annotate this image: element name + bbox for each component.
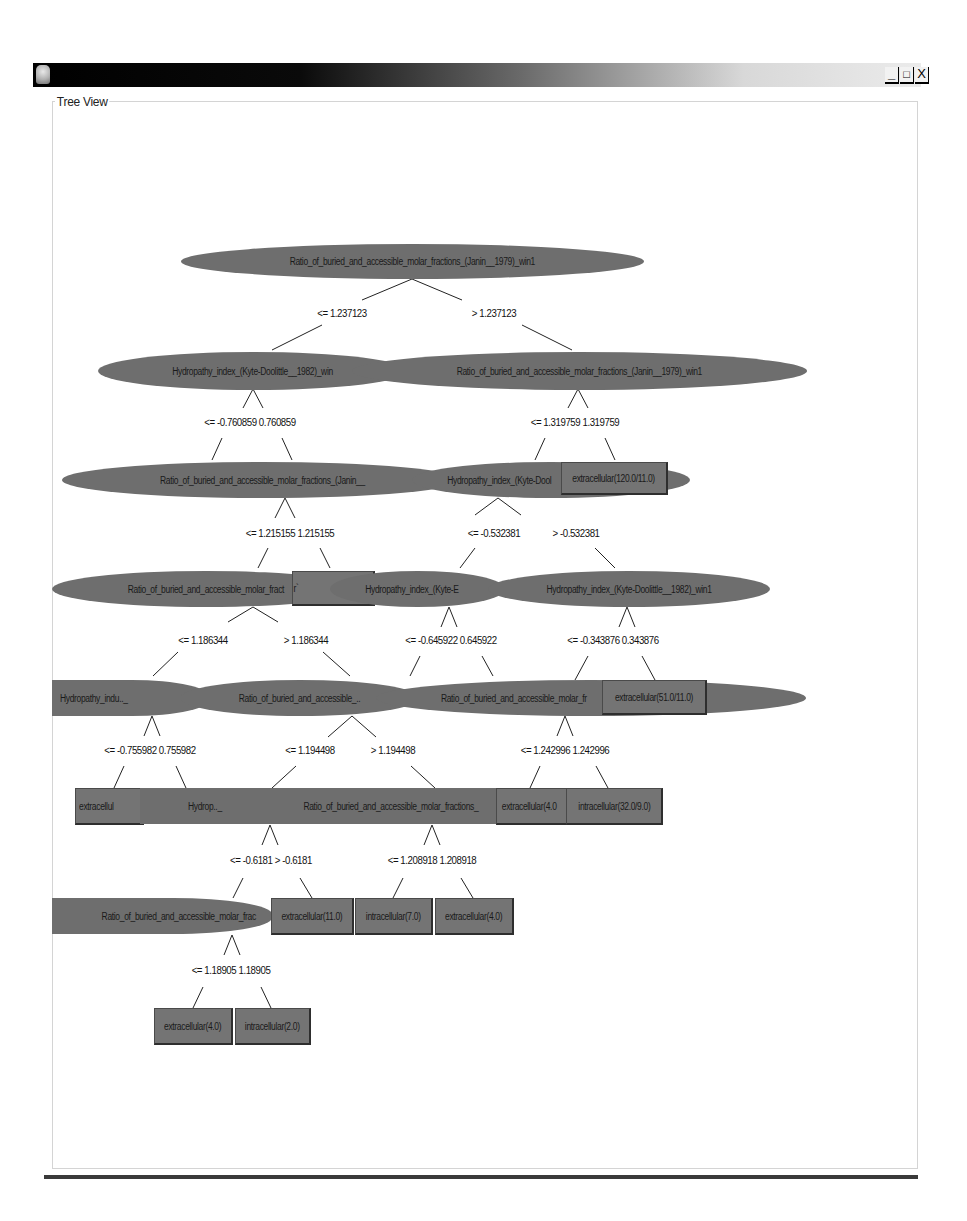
leaf-node[interactable]: intracellular(2.0) bbox=[235, 1008, 311, 1045]
leaf-node[interactable]: extracellular(120.0/11.0) bbox=[561, 462, 668, 495]
leaf-node[interactable]: extracellular(4.0 bbox=[496, 788, 569, 825]
edge-label: <= 1.215155 1.215155 bbox=[246, 527, 335, 539]
edge-label: <= -0.760859 0.760859 bbox=[204, 416, 295, 428]
edge-label: > 1.194498 bbox=[371, 744, 415, 756]
tree-node[interactable]: Ratio_of_buried_and_accessible_molar_fr bbox=[376, 680, 806, 716]
edge-label: <= 1.319759 1.319759 bbox=[531, 416, 620, 428]
edge-label: > -0.532381 bbox=[552, 527, 599, 539]
edge-label: > 1.186344 bbox=[284, 634, 328, 646]
leaf-node[interactable]: extracellular(4.0) bbox=[154, 1008, 233, 1045]
edge-label: <= 1.242996 1.242996 bbox=[521, 744, 610, 756]
tree-node[interactable]: Hydropathy_index_(Kyte-Doolittle__1982)_… bbox=[488, 571, 770, 607]
leaf-node[interactable]: extracellular(4.0) bbox=[435, 898, 514, 935]
leaf-node[interactable]: intracellular(7.0) bbox=[355, 898, 433, 935]
edge-label: <= -0.645922 0.645922 bbox=[405, 634, 496, 646]
leaf-node[interactable]: extracellul bbox=[75, 788, 144, 825]
edge-label: <= -0.6181 > -0.6181 bbox=[230, 854, 312, 866]
edge-label: <= 1.208918 1.208918 bbox=[388, 854, 477, 866]
tree-node[interactable]: Hydropathy_index_(Kyte-E bbox=[330, 571, 505, 607]
leaf-node[interactable]: intracellular(32.0/9.0) bbox=[566, 788, 663, 825]
leaf-node[interactable]: extracellular(51.0/11.0) bbox=[602, 680, 707, 715]
edge-label: <= 1.194498 bbox=[285, 744, 335, 756]
edge-label: <= -0.343876 0.343876 bbox=[567, 634, 658, 646]
edge-label: <= 1.18905 1.18905 bbox=[192, 964, 271, 976]
tree-node[interactable]: Ratio_of_buried_and_accessible_molar_fra… bbox=[181, 244, 644, 279]
tree-edges bbox=[0, 0, 967, 1221]
edge-label: <= -0.755982 0.755982 bbox=[104, 744, 195, 756]
edge-label: <= 1.237123 bbox=[317, 307, 367, 319]
tree-node[interactable]: Ratio_of_buried_and_accessible_molar_fra… bbox=[228, 788, 496, 824]
edge-label: <= -0.532381 bbox=[468, 527, 520, 539]
edge-label: > 1.237123 bbox=[472, 307, 516, 319]
tree-node[interactable]: Ratio_of_buried_and_accessible_molar_fra… bbox=[352, 352, 807, 390]
tree-node[interactable]: Ratio_of_buried_and_accessible_molar_fra… bbox=[52, 898, 272, 934]
leaf-node[interactable]: extracellular(11.0) bbox=[271, 898, 354, 935]
edge-label: <= 1.186344 bbox=[178, 634, 228, 646]
tree-node[interactable]: Ratio_of_buried_and_accessible_molar_fra… bbox=[62, 462, 462, 498]
bottom-divider bbox=[44, 1175, 918, 1179]
